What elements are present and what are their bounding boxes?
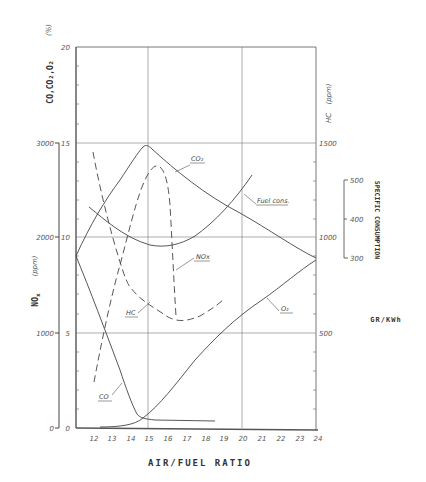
svg-text:400: 400 xyxy=(350,216,364,224)
x-axis-title: AIR/FUEL RATIO xyxy=(148,458,252,468)
nox-label: NOx xyxy=(196,253,210,261)
svg-text:300: 300 xyxy=(350,255,364,263)
right-minor-ticks xyxy=(313,162,316,409)
svg-text:500: 500 xyxy=(350,177,364,185)
nox-axis-title: NOx xyxy=(31,293,41,307)
svg-text:HC: HC xyxy=(325,113,333,123)
svg-text:21: 21 xyxy=(258,435,267,443)
nox-tick-labels: 3000 2000 1000 0 xyxy=(36,140,54,433)
svg-text:15: 15 xyxy=(61,140,70,148)
svg-text:18: 18 xyxy=(202,435,211,443)
nox-axis xyxy=(55,143,59,428)
svg-text:23: 23 xyxy=(296,435,305,443)
x-tick-labels: 12 13 14 15 16 17 18 19 20 21 22 23 24 xyxy=(90,435,323,443)
svg-text:0: 0 xyxy=(50,425,55,433)
svg-text:10: 10 xyxy=(61,234,70,242)
curve-label-texts: CO₂ Fuel cons. NOx HC CO O₂ xyxy=(99,155,290,401)
engine-emissions-chart: 20 15 10 5 0 3000 2000 1000 0 1500 1000 … xyxy=(0,0,426,482)
svg-text:500: 500 xyxy=(319,330,333,338)
sfc-axis-title: SPECIFIC CONSUMPTION xyxy=(373,181,381,259)
sfc-axis-unit: GR/KWh xyxy=(370,316,401,324)
co2-label: CO₂ xyxy=(191,155,204,163)
svg-text:NOx: NOx xyxy=(31,293,41,307)
fuel-consumption-label: Fuel cons. xyxy=(257,197,290,205)
pct-tick-labels: 20 15 10 5 0 xyxy=(61,44,70,433)
svg-text:SPECIFIC CONSUMPTION: SPECIFIC CONSUMPTION xyxy=(373,181,381,259)
svg-text:19: 19 xyxy=(220,435,229,443)
sfc-axis xyxy=(344,180,348,258)
svg-text:5: 5 xyxy=(66,330,71,338)
svg-text:(ppm): (ppm) xyxy=(31,255,39,276)
svg-text:3000: 3000 xyxy=(36,140,54,148)
left-inner-axis-title: CO,CO₂,O₂ xyxy=(46,60,55,103)
hc-axis-unit: (ppm) xyxy=(325,83,333,104)
hc-axis-title: HC xyxy=(325,113,333,123)
svg-text:20: 20 xyxy=(61,44,70,52)
nox-curve xyxy=(94,166,176,382)
co-label: CO xyxy=(99,393,109,401)
svg-text:12: 12 xyxy=(90,435,99,443)
svg-text:16: 16 xyxy=(164,435,173,443)
o2-label: O₂ xyxy=(281,305,289,313)
o2-curve xyxy=(100,260,316,427)
svg-text:17: 17 xyxy=(183,435,192,443)
hc-label: HC xyxy=(126,309,136,317)
svg-text:14: 14 xyxy=(127,435,136,443)
svg-text:0: 0 xyxy=(66,425,71,433)
svg-text:13: 13 xyxy=(108,435,117,443)
co-curve xyxy=(76,256,215,421)
hc-tick-labels: 1500 1000 500 xyxy=(319,140,337,338)
svg-text:1500: 1500 xyxy=(319,140,337,148)
svg-text:2000: 2000 xyxy=(36,234,54,242)
svg-text:1000: 1000 xyxy=(36,330,54,338)
left-inner-axis-unit: (%) xyxy=(45,24,53,36)
hc-curve xyxy=(93,152,225,321)
svg-text:(ppm): (ppm) xyxy=(325,83,333,104)
svg-text:CO,CO₂,O₂: CO,CO₂,O₂ xyxy=(46,60,55,103)
svg-text:20: 20 xyxy=(239,435,248,443)
nox-axis-unit: (ppm) xyxy=(31,255,39,276)
svg-text:1000: 1000 xyxy=(319,234,337,242)
svg-text:15: 15 xyxy=(145,435,154,443)
svg-text:24: 24 xyxy=(314,435,323,443)
svg-text:22: 22 xyxy=(277,435,286,443)
svg-text:(%): (%) xyxy=(45,24,53,36)
sfc-tick-labels: 500 400 300 xyxy=(350,177,364,263)
